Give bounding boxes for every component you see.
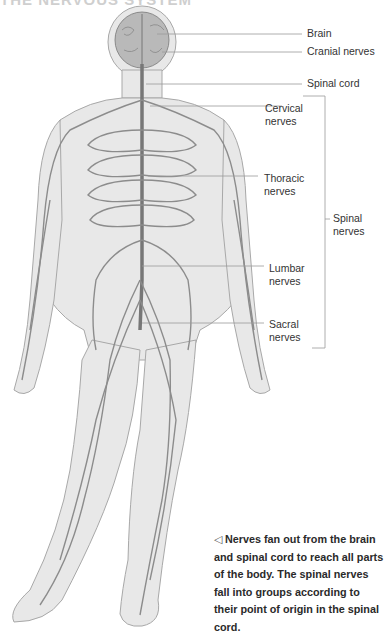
label-cervical-nerves: Cervical nerves: [265, 102, 303, 128]
label-sacral-nerves: Sacral nerves: [269, 318, 301, 344]
label-lumbar-nerves: Lumbar nerves: [269, 262, 305, 288]
label-brain: Brain: [307, 27, 332, 40]
label-cranial-nerves: Cranial nerves: [307, 45, 375, 58]
spinal-cord-shape: [140, 64, 142, 330]
label-spinal-nerves: Spinal nerves: [333, 212, 365, 238]
left-triangle-icon: ◁: [214, 533, 222, 545]
label-thoracic-nerves: Thoracic nerves: [264, 172, 304, 198]
label-spinal-cord: Spinal cord: [307, 77, 360, 90]
figure-caption: ◁Nerves fan out from the brain and spina…: [214, 531, 386, 636]
spinal-nerves-bracket: [303, 96, 325, 348]
caption-text: Nerves fan out from the brain and spinal…: [214, 533, 383, 633]
brain-shape: [115, 12, 169, 68]
